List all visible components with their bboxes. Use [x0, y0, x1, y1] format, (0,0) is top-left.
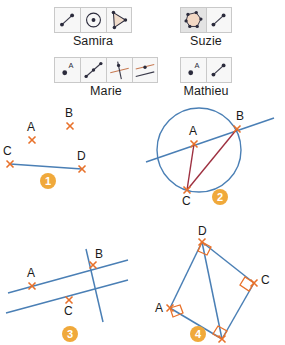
toolbar-owner-name: Suzie [190, 34, 222, 48]
segment-cb [187, 129, 237, 190]
figure-number-badge-4: 4 [190, 326, 206, 342]
point-mark-c [66, 297, 73, 304]
segment-cd [10, 164, 82, 169]
toolbar-owner-name: Mathieu [183, 84, 228, 98]
point-label-d: D [77, 149, 86, 163]
toolbar-group-marie: A Marie [54, 57, 158, 98]
point-mark-c [251, 280, 258, 287]
circle-center-point-tool-icon[interactable] [80, 7, 106, 33]
point-label-a: A [189, 124, 197, 138]
toolbar-group-samira: Samira [54, 7, 132, 48]
point-label-c: C [3, 144, 12, 158]
polygon-triangle-tool-icon[interactable] [106, 7, 132, 33]
point-label-c: C [64, 304, 73, 318]
figure-4: A B C D [142, 222, 285, 344]
toolbar-owner-name: Samira [73, 34, 113, 48]
svg-text:A: A [194, 61, 199, 70]
point-mark-a [167, 305, 174, 312]
toolbar-icons-marie: A [54, 57, 158, 83]
point-label-b: B [65, 106, 73, 120]
point-mark-a [29, 137, 36, 144]
point-label-a: A [27, 120, 35, 134]
point-mark-b [90, 262, 97, 269]
circle-shape [157, 108, 241, 192]
perpendicular-line-tool-icon[interactable] [106, 57, 132, 83]
toolbar-group-mathieu: A Mathieu [180, 57, 232, 98]
diagonal-db [202, 242, 222, 339]
filled-polygon-tool-icon[interactable] [180, 7, 206, 33]
point-mark-b [67, 123, 74, 130]
point-label-c: C [182, 194, 191, 208]
point-label-b: B [236, 109, 244, 123]
upper-parallel-line [8, 260, 128, 293]
figure-number-badge-2: 2 [212, 189, 228, 205]
segment-tool-icon[interactable] [206, 7, 232, 33]
point-label-b: B [95, 247, 103, 261]
toolbar-icons-suzie [180, 7, 232, 33]
toolbar-owner-name: Marie [90, 84, 122, 98]
point-label-c: C [261, 273, 270, 287]
svg-text:A: A [68, 61, 73, 70]
figure-number-badge-1: 1 [40, 173, 56, 189]
point-label-a: A [27, 266, 35, 280]
segment-with-midpoint-tool-icon[interactable] [80, 57, 106, 83]
figure-number-badge-3: 3 [62, 326, 78, 342]
segment-tool-icon[interactable] [54, 7, 80, 33]
figure-3: A B C [0, 232, 135, 327]
point-label-d: D [198, 224, 207, 238]
toolbar-group-suzie: Suzie [180, 7, 232, 48]
figure-1: A B C D [0, 104, 130, 189]
toolbar-icons-mathieu: A [180, 57, 232, 83]
parallel-line-tool-icon[interactable] [132, 57, 158, 83]
point-label-a-tool-icon[interactable]: A [180, 57, 206, 83]
toolbar-icons-samira [54, 7, 132, 33]
segment-tool-icon[interactable] [206, 57, 232, 83]
point-label-a-tool-icon[interactable]: A [54, 57, 80, 83]
side-ad [170, 242, 202, 308]
point-label-a: A [155, 301, 163, 315]
